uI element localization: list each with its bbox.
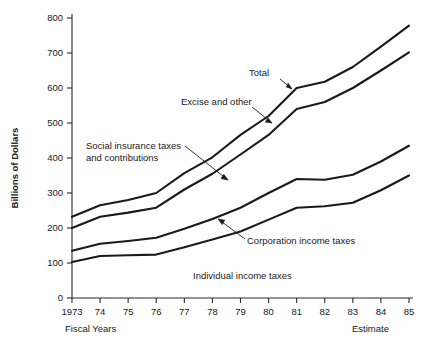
- y-tick-label: 400: [47, 152, 63, 163]
- series-line: [72, 176, 409, 262]
- y-tick-label: 0: [58, 292, 63, 303]
- x-axis-title: Fiscal Years: [65, 323, 116, 334]
- chart-container: 0100200300400500600700800197374757677787…: [0, 0, 423, 347]
- y-tick-label: 300: [47, 187, 63, 198]
- y-tick-label: 500: [47, 117, 63, 128]
- annotation-label: and contributions: [86, 152, 159, 163]
- annotation-label: Excise and other: [181, 96, 252, 107]
- x-tick-label: 83: [348, 306, 359, 317]
- x-tick-label: 78: [207, 306, 218, 317]
- x-tick-label: 80: [263, 306, 274, 317]
- annotation-label: Social insurance taxes: [86, 140, 181, 151]
- y-axis-title: Billions of Dollars: [9, 128, 20, 209]
- estimate-note: Estimate: [352, 323, 389, 334]
- annotation-arrowhead: [286, 83, 292, 89]
- y-tick-label: 200: [47, 222, 63, 233]
- x-tick-label: 82: [319, 306, 330, 317]
- annotation-label: Total: [249, 67, 269, 78]
- line-chart: 0100200300400500600700800197374757677787…: [0, 0, 423, 347]
- series-line: [72, 26, 409, 217]
- y-tick-label: 800: [47, 12, 63, 23]
- x-tick-label: 79: [235, 306, 246, 317]
- x-tick-label: 76: [151, 306, 162, 317]
- x-tick-label: 74: [95, 306, 106, 317]
- annotation-label: Corporation income taxes: [247, 235, 355, 246]
- annotation-label: Individual income taxes: [193, 270, 292, 281]
- x-tick-label: 84: [376, 306, 387, 317]
- x-tick-label: 85: [404, 306, 415, 317]
- x-tick-label: 77: [179, 306, 190, 317]
- y-tick-label: 700: [47, 47, 63, 58]
- x-tick-label: 75: [123, 306, 134, 317]
- y-tick-label: 600: [47, 82, 63, 93]
- x-tick-label: 81: [291, 306, 302, 317]
- x-tick-label: 1973: [61, 306, 82, 317]
- y-tick-label: 100: [47, 257, 63, 268]
